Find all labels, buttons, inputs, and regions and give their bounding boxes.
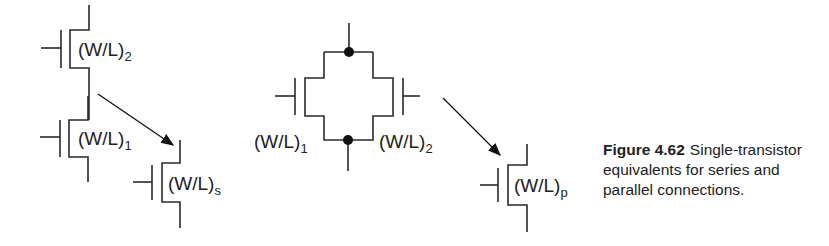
parallel-arrow-icon — [443, 98, 500, 155]
bottom-node-icon — [343, 135, 353, 145]
parallel-equivalent-label: (W/L)p — [514, 175, 568, 200]
series-label-1: (W/L)1 — [78, 128, 132, 153]
top-node-icon — [344, 47, 354, 57]
figure-caption: Figure 4.62Single-transistor equivalents… — [603, 140, 828, 200]
parallel-label-2: (W/L)2 — [379, 131, 433, 156]
series-transistor-2: (W/L)2 — [41, 5, 132, 120]
parallel-label-1: (W/L)1 — [254, 131, 308, 156]
circuit-diagram: (W/L)2 (W/L)1 (W/L)s (W/L)1 (W/L)2 — [0, 0, 829, 246]
series-transistor-1: (W/L)1 — [40, 96, 132, 182]
parallel-equivalent-transistor: (W/L)p — [480, 144, 568, 232]
parallel-transistors: (W/L)1 (W/L)2 — [254, 23, 433, 171]
figure-number: Figure 4.62 — [603, 141, 685, 158]
series-equivalent-label: (W/L)s — [168, 173, 221, 198]
series-equivalent-transistor: (W/L)s — [133, 140, 221, 228]
series-label-2: (W/L)2 — [78, 39, 132, 64]
